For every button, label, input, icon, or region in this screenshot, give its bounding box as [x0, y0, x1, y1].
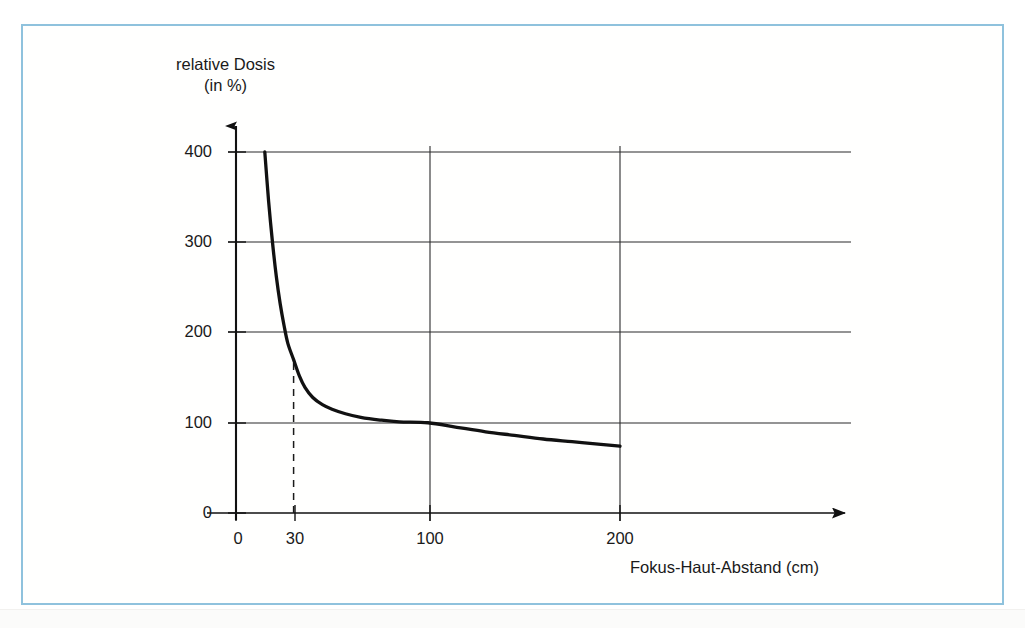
x-tick-label-0: 0	[228, 529, 248, 548]
y-tick-label-100: 100	[170, 413, 212, 432]
figure-border	[21, 24, 1004, 605]
x-tick-label-200: 200	[602, 529, 638, 548]
y-axis-title-line1: relative Dosis	[176, 55, 275, 73]
y-axis-title-line2: (in %)	[176, 75, 275, 96]
x-axis-title: Fokus-Haut-Abstand (cm)	[630, 557, 819, 578]
y-axis-title: relative Dosis (in %)	[176, 54, 275, 96]
y-tick-label-0: 0	[170, 503, 212, 522]
x-tick-label-100: 100	[412, 529, 448, 548]
x-tick-label-30: 30	[281, 529, 309, 548]
y-tick-label-400: 400	[170, 142, 212, 161]
scan-artifact-strip	[0, 609, 1025, 628]
y-tick-label-300: 300	[170, 232, 212, 251]
y-tick-label-200: 200	[170, 322, 212, 341]
